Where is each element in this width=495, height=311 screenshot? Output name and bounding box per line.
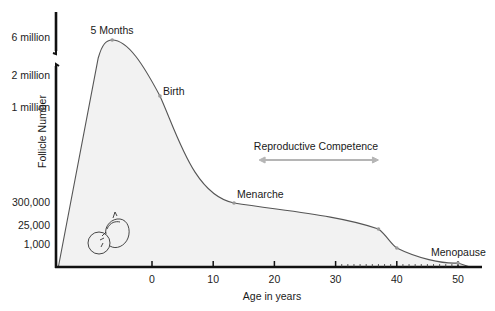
x-tick-label: 0 (149, 273, 155, 285)
x-tick-label: 30 (330, 273, 342, 285)
follicle-chart: 01020304050 6 million2 million1 million3… (0, 0, 495, 311)
curve-marker (377, 227, 381, 231)
curve-marker (110, 38, 114, 42)
y-tick-label: 25,000 (18, 219, 50, 231)
curve-marker (395, 246, 399, 250)
annotation-birth: Birth (163, 85, 185, 97)
annotation-menarche: Menarche (237, 188, 284, 200)
y-tick-label: 6 million (11, 31, 50, 43)
annotation-5-months: 5 Months (90, 24, 133, 36)
reproductive-competence-arrow (259, 157, 378, 163)
follicle-area-fill (58, 40, 470, 267)
curve-marker (456, 261, 460, 265)
x-tick-label: 40 (391, 273, 403, 285)
curve-marker (158, 94, 162, 98)
y-axis-break-top-tick (53, 51, 56, 54)
x-tick-label: 50 (452, 273, 464, 285)
y-axis-label: Follicle Number (36, 95, 48, 168)
x-tick-label: 10 (207, 273, 219, 285)
y-tick-label: 300,000 (12, 196, 50, 208)
y-tick-label: 2 million (11, 69, 50, 81)
annotation-menopause: Menopause (431, 246, 486, 258)
y-tick-label: 1,000 (24, 238, 50, 250)
x-tick-label: 20 (269, 273, 281, 285)
annotation-reproductive-competence: Reproductive Competence (254, 140, 378, 152)
x-axis-label: Age in years (243, 290, 301, 302)
curve-marker (232, 201, 236, 205)
y-axis-break-bottom-tick (56, 64, 59, 66)
